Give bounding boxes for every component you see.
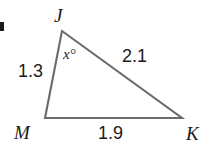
- side-length-label-jk: 2.1: [122, 47, 147, 65]
- angle-label-x: x°: [63, 47, 76, 62]
- side-length-label-jm: 1.3: [18, 62, 43, 80]
- vertex-label-k: K: [186, 124, 199, 143]
- side-length-label-mk: 1.9: [98, 124, 123, 142]
- vertex-label-m: M: [14, 123, 30, 142]
- left-edge-artifact-mark: [0, 22, 4, 31]
- triangle-jmk-outline: [45, 31, 182, 118]
- vertex-label-j: J: [54, 6, 62, 25]
- triangle-diagram: J M K 1.3 2.1 1.9 x°: [0, 0, 203, 151]
